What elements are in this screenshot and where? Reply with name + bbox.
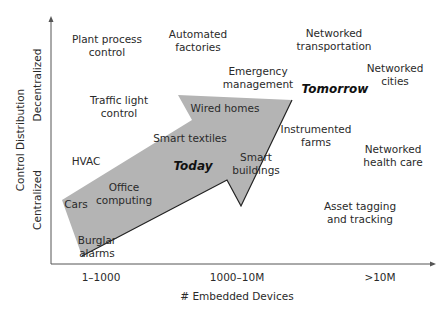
x-tick-high: >10M [364,271,395,283]
y-axis-title: Control Distribution [14,89,26,192]
x-axis-title: # Embedded Devices [180,290,293,302]
y-tick-centralized: Centralized [31,170,43,230]
x-tick-low: 1–1000 [82,271,121,283]
x-axis-arrowhead-icon [430,262,436,267]
app-smart-buildings: Smartbuildings [232,151,280,176]
app-networked-health-care: Networkedhealth care [363,143,422,168]
app-burglar-alarms: Burglaralarms [78,234,116,259]
app-automated-factories: Automatedfactories [169,28,227,53]
app-networked-cities: Networkedcities [367,62,424,87]
app-traffic-light-control: Traffic lightcontrol [90,94,148,119]
app-plant-process-control: Plant processcontrol [72,33,142,58]
app-smart-textiles: Smart textiles [153,132,227,145]
app-hvac: HVAC [72,155,101,168]
app-emergency-management: Emergencymanagement [223,65,293,90]
app-asset-tagging-and-tracking: Asset taggingand tracking [324,200,396,225]
app-wired-homes: Wired homes [191,102,260,115]
y-axis-arrowhead-icon [49,16,54,22]
app-office-computing: Officecomputing [96,181,152,206]
app-instrumented-farms: Instrumentedfarms [281,123,352,148]
era-today: Today [173,159,212,173]
era-tomorrow: Tomorrow [302,82,369,96]
app-cars: Cars [64,198,88,211]
x-tick-mid: 1000–10M [210,271,264,283]
y-tick-decentralized: Decentralized [31,49,43,122]
app-networked-transportation: Networkedtransportation [296,27,371,52]
